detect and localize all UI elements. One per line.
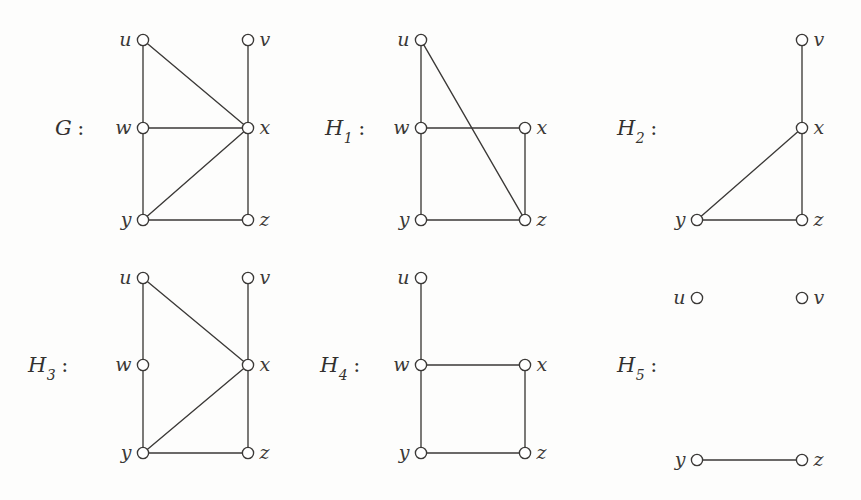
graph-label-colon: :	[358, 116, 366, 140]
vertex-H5-u	[691, 292, 702, 303]
vertex-H4-u	[415, 272, 426, 283]
graph-label-letter: H	[617, 353, 636, 377]
vertex-H2-z	[796, 214, 807, 225]
graph-H2	[691, 34, 807, 225]
vertex-H5-v	[796, 292, 807, 303]
edge-H2-xy	[701, 132, 798, 217]
vertex-H5-z	[796, 454, 807, 465]
graph-figure: uvwxyzG:uwxyzH1:vxyzH2:uvwxyzH3:uwxyzH4:…	[0, 0, 861, 500]
edge-G-ux	[147, 44, 243, 125]
graph-label-subscript: 2	[636, 130, 645, 146]
vertex-label-H2-x: x	[814, 116, 825, 138]
graph-label-subscript: 4	[339, 367, 348, 383]
graph-label-H4: H4:	[320, 353, 361, 380]
vertex-label-H1-u: u	[0, 28, 409, 50]
vertex-H2-v	[796, 34, 807, 45]
vertex-label-H2-z: z	[814, 208, 824, 230]
vertex-H5-y	[691, 454, 702, 465]
vertex-H1-w	[415, 122, 426, 133]
graph-H1	[415, 34, 530, 225]
vertex-label-H1-x: x	[537, 116, 548, 138]
edge-G-xy	[147, 132, 244, 217]
vertex-label-H5-z: z	[814, 448, 824, 470]
graph-label-H2: H2:	[617, 116, 658, 143]
graph-label-colon: :	[650, 116, 658, 140]
vertex-label-H4-u: u	[0, 266, 409, 288]
vertex-label-H2-y: y	[0, 208, 685, 230]
edge-H3-xy	[147, 369, 243, 450]
graph-label-letter: H	[325, 116, 344, 140]
vertex-H1-u	[415, 34, 426, 45]
vertex-H2-y	[691, 214, 702, 225]
graph-label-H1: H1:	[325, 116, 366, 143]
vertex-H4-x	[519, 359, 530, 370]
vertex-label-H5-y: y	[0, 448, 685, 470]
vertex-H4-w	[415, 359, 426, 370]
graph-label-H5: H5:	[617, 353, 658, 380]
vertex-label-H4-x: x	[537, 353, 548, 375]
graph-canvas	[0, 0, 861, 500]
graph-label-colon: :	[650, 353, 658, 377]
edge-H1-uz	[424, 45, 522, 215]
vertex-H2-x	[796, 122, 807, 133]
graph-label-subscript: 1	[344, 130, 353, 146]
graph-label-subscript: 5	[636, 367, 645, 383]
graph-label-letter: H	[617, 116, 636, 140]
vertex-H1-x	[519, 122, 530, 133]
vertex-label-H5-v: v	[814, 286, 825, 308]
vertex-label-H2-v: v	[814, 28, 825, 50]
vertex-label-H5-u: u	[0, 286, 685, 308]
graph-H5	[691, 292, 807, 465]
graph-label-letter: H	[320, 353, 339, 377]
graph-label-colon: :	[353, 353, 361, 377]
